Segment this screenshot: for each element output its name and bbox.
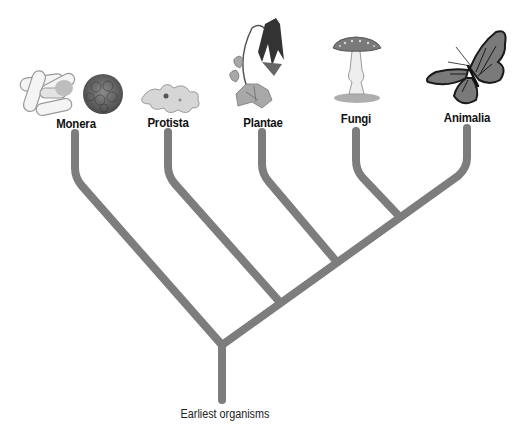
phylogenetic-tree-diagram: Monera Protista Plantae Fungi Animalia E… bbox=[0, 0, 516, 435]
kingdom-label-protista: Protista bbox=[147, 115, 188, 130]
branch-plantae bbox=[262, 132, 336, 261]
plantae-columbine-icon bbox=[230, 18, 284, 108]
tree-branches bbox=[0, 0, 516, 435]
fungi-mushroom-icon bbox=[333, 37, 381, 103]
monera-bacteria-icon bbox=[19, 69, 123, 116]
animalia-butterfly-icon bbox=[427, 31, 506, 103]
kingdom-label-animalia: Animalia bbox=[444, 110, 490, 125]
branch-monera bbox=[75, 133, 222, 345]
kingdom-label-monera: Monera bbox=[56, 116, 96, 131]
kingdom-label-plantae: Plantae bbox=[243, 115, 282, 130]
kingdom-label-fungi: Fungi bbox=[341, 111, 371, 126]
branch-fungi bbox=[356, 131, 398, 215]
root-label-earliest-organisms: Earliest organisms bbox=[181, 407, 270, 421]
protista-amoeba-icon bbox=[142, 84, 199, 112]
